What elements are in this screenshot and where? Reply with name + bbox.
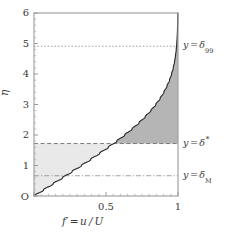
annotation-delta99: y=δ99 — [183, 40, 213, 50]
y-tick-label-4: 4 — [7, 69, 29, 79]
x-axis-title: f′=u / U — [62, 216, 103, 227]
x-axis-title-equals: = — [68, 215, 80, 227]
y-tick-label-3: 3 — [7, 100, 29, 110]
annotation-delta99-equals: = — [188, 39, 199, 50]
y-tick-label-5: 5 — [7, 39, 29, 49]
y-tick-label-2: 2 — [7, 130, 29, 140]
annotation-deltaM-equals: = — [188, 169, 199, 180]
x-tick-label-one: 1 — [163, 202, 193, 212]
plot-canvas — [0, 0, 231, 233]
annotation-delta99-subscript: 99 — [205, 47, 213, 55]
annotation-delta-star-equals: = — [188, 137, 199, 148]
y-tick-label-1: 1 — [7, 161, 29, 171]
annotation-deltaM: y=δM — [183, 170, 212, 180]
y-tick-label-6: 6 — [7, 8, 29, 18]
x-axis-title-expression: u / U — [80, 215, 103, 227]
annotation-delta-star-superscript: ∗ — [205, 133, 210, 142]
annotation-delta-star: y=δ∗ — [183, 138, 210, 148]
x-tick-label-half: 0.5 — [91, 202, 121, 212]
annotation-deltaM-subscript: M — [205, 177, 212, 185]
blasius-profile-figure: O 1 2 3 4 5 6 0.5 1 η f′=u / U y=δ99 y=δ… — [0, 0, 231, 233]
momentum-deficit-shading — [114, 13, 178, 144]
y-tick-label-origin: O — [7, 192, 29, 202]
y-axis-title: η — [0, 90, 10, 96]
